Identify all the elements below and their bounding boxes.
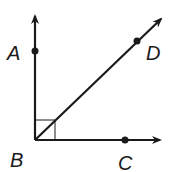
point-a	[32, 48, 39, 55]
label-d: D	[146, 42, 160, 64]
label-c: C	[118, 152, 133, 172]
ray-bd	[35, 19, 161, 140]
point-c	[122, 137, 129, 144]
point-d	[134, 38, 141, 45]
geometry-diagram: A D B C	[0, 0, 171, 172]
label-b: B	[10, 149, 23, 171]
label-a: A	[6, 42, 20, 64]
